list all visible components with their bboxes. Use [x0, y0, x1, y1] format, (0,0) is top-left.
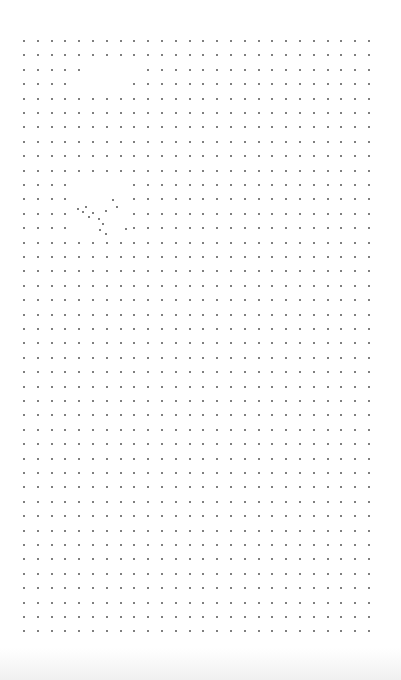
grid-dot: [106, 328, 108, 330]
grid-dot: [354, 558, 356, 560]
grid-dot: [327, 112, 329, 114]
grid-dot: [230, 501, 232, 503]
grid-dot: [133, 400, 135, 402]
grid-dot: [354, 458, 356, 460]
grid-dot: [216, 213, 218, 215]
grid-dot: [313, 314, 315, 316]
grid-dot: [299, 83, 301, 85]
grid-dot: [340, 400, 342, 402]
grid-dot: [189, 40, 191, 42]
grid-dot: [285, 530, 287, 532]
grid-dot: [64, 270, 66, 272]
grid-dot: [23, 213, 25, 215]
grid-dot: [78, 544, 80, 546]
grid-dot: [230, 400, 232, 402]
grid-dot: [327, 155, 329, 157]
grid-dot: [161, 227, 163, 229]
grid-dot: [175, 126, 177, 128]
grid-dot: [258, 501, 260, 503]
grid-dot: [258, 486, 260, 488]
grid-dot: [271, 458, 273, 460]
grid-dot: [216, 227, 218, 229]
grid-dot: [340, 213, 342, 215]
grid-dot: [327, 328, 329, 330]
grid-dot: [161, 501, 163, 503]
grid-dot: [106, 371, 108, 373]
grid-dot: [161, 429, 163, 431]
grid-dot: [106, 602, 108, 604]
grid-dot: [147, 184, 149, 186]
grid-dot: [202, 126, 204, 128]
grid-dot: [78, 155, 80, 157]
grid-dot: [340, 616, 342, 618]
grid-dot: [327, 126, 329, 128]
grid-dot: [51, 112, 53, 114]
grid-dot: [92, 544, 94, 546]
grid-dot: [133, 83, 135, 85]
grid-dot: [368, 342, 370, 344]
grid-dot: [78, 126, 80, 128]
grid-dot: [354, 270, 356, 272]
grid-dot: [244, 414, 246, 416]
grid-dot: [230, 342, 232, 344]
grid-dot: [175, 386, 177, 388]
scattered-dot: [125, 228, 127, 230]
grid-dot: [133, 314, 135, 316]
grid-dot: [244, 270, 246, 272]
grid-dot: [340, 270, 342, 272]
grid-dot: [78, 400, 80, 402]
grid-dot: [120, 558, 122, 560]
grid-dot: [64, 630, 66, 632]
grid-dot: [133, 558, 135, 560]
grid-dot: [285, 155, 287, 157]
grid-dot: [244, 342, 246, 344]
grid-dot: [258, 515, 260, 517]
grid-dot: [327, 198, 329, 200]
grid-dot: [189, 54, 191, 56]
grid-dot: [64, 198, 66, 200]
grid-dot: [133, 270, 135, 272]
grid-dot: [23, 558, 25, 560]
grid-dot: [340, 414, 342, 416]
grid-dot: [340, 170, 342, 172]
scattered-dot: [82, 211, 84, 213]
grid-dot: [120, 314, 122, 316]
grid-dot: [354, 587, 356, 589]
grid-dot: [189, 414, 191, 416]
grid-dot: [189, 357, 191, 359]
grid-dot: [64, 141, 66, 143]
grid-dot: [147, 371, 149, 373]
grid-dot: [64, 328, 66, 330]
grid-dot: [230, 155, 232, 157]
grid-dot: [271, 558, 273, 560]
grid-dot: [299, 98, 301, 100]
grid-dot: [258, 558, 260, 560]
grid-dot: [313, 40, 315, 42]
grid-dot: [202, 371, 204, 373]
grid-dot: [147, 314, 149, 316]
grid-dot: [313, 184, 315, 186]
grid-dot: [161, 573, 163, 575]
grid-dot: [106, 544, 108, 546]
grid-dot: [133, 170, 135, 172]
grid-dot: [202, 170, 204, 172]
grid-dot: [216, 299, 218, 301]
scattered-dot: [77, 208, 79, 210]
grid-dot: [299, 587, 301, 589]
grid-dot: [37, 429, 39, 431]
scattered-dot: [102, 223, 104, 225]
grid-dot: [244, 69, 246, 71]
grid-dot: [244, 198, 246, 200]
grid-dot: [189, 429, 191, 431]
grid-dot: [258, 270, 260, 272]
grid-dot: [51, 227, 53, 229]
grid-dot: [368, 299, 370, 301]
grid-dot: [37, 342, 39, 344]
grid-dot: [327, 242, 329, 244]
grid-dot: [244, 458, 246, 460]
grid-dot: [285, 630, 287, 632]
grid-dot: [327, 587, 329, 589]
grid-dot: [92, 155, 94, 157]
grid-dot: [202, 256, 204, 258]
grid-dot: [37, 227, 39, 229]
